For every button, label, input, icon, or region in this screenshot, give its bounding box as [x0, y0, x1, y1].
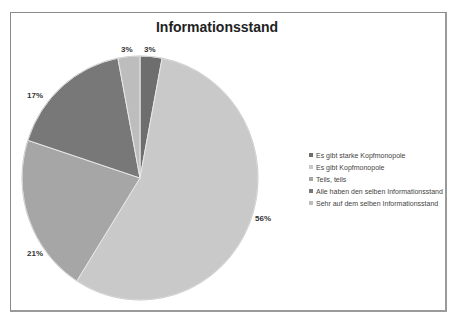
data-label: 21%	[27, 249, 43, 258]
chart-legend: Es gibt starke KopfmonopoleEs gibt Kopfm…	[309, 149, 443, 209]
legend-label: Teils, teils	[316, 176, 346, 183]
legend-label: Sehr auf dem selben Informationsstand	[316, 200, 438, 207]
legend-swatch-icon	[309, 153, 313, 157]
legend-swatch-icon	[309, 177, 313, 181]
legend-item: Es gibt starke Kopfmonopole	[309, 149, 443, 161]
legend-label: Alle haben den selben Informationsstand	[316, 188, 443, 195]
legend-item: Es gibt Kopfmonopole	[309, 161, 443, 173]
legend-swatch-icon	[309, 165, 313, 169]
data-label: 3%	[121, 45, 133, 54]
data-label: 56%	[255, 214, 271, 223]
legend-label: Es gibt Kopfmonopole	[316, 164, 385, 171]
data-label: 3%	[144, 45, 156, 54]
data-label: 17%	[27, 91, 43, 100]
legend-item: Sehr auf dem selben Informationsstand	[309, 197, 443, 209]
legend-label: Es gibt starke Kopfmonopole	[316, 152, 406, 159]
legend-item: Alle haben den selben Informationsstand	[309, 185, 443, 197]
legend-swatch-icon	[309, 201, 313, 205]
legend-swatch-icon	[309, 189, 313, 193]
legend-item: Teils, teils	[309, 173, 443, 185]
